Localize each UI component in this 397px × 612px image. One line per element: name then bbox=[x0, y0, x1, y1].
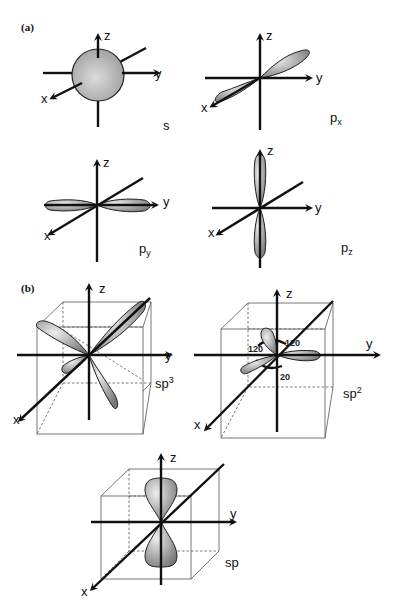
py-orbital-label: py bbox=[139, 241, 151, 258]
y-axis-label: y bbox=[155, 66, 162, 81]
panel-label-a: (a) bbox=[21, 21, 34, 34]
py-orbital-diagram: z y x py bbox=[44, 155, 170, 262]
bond-angle-label: 120 bbox=[285, 338, 300, 348]
y-axis-label: y bbox=[165, 348, 172, 363]
pz-orbital-diagram: z y x pz bbox=[208, 143, 353, 268]
x-axis-label: x bbox=[201, 100, 208, 115]
y-axis-label: y bbox=[315, 200, 322, 215]
sp3-orbital-label: sp3 bbox=[155, 375, 174, 391]
z-axis-label: z bbox=[104, 28, 111, 43]
px-orbital-label: px bbox=[330, 110, 342, 127]
z-axis-label: z bbox=[103, 155, 110, 170]
s-orbital-diagram: z y x s bbox=[41, 28, 170, 133]
bond-angle-label: 20 bbox=[280, 372, 290, 382]
bond-angle-label: 120 bbox=[248, 344, 263, 354]
sp3-orbital-diagram: z y x sp3 bbox=[13, 281, 174, 434]
x-axis-label: x bbox=[13, 412, 20, 427]
sp-orbital-label: sp bbox=[225, 555, 239, 570]
pz-orbital-label: pz bbox=[341, 240, 353, 257]
sp2-orbital-label: sp2 bbox=[343, 385, 362, 401]
x-axis-label: x bbox=[194, 417, 201, 432]
y-axis-label: y bbox=[316, 70, 323, 85]
z-axis-label: z bbox=[286, 286, 293, 301]
z-axis-label: z bbox=[99, 281, 106, 296]
y-axis-label: y bbox=[366, 336, 373, 351]
x-axis-label: x bbox=[44, 228, 51, 243]
sp-orbital-diagram: z y x sp bbox=[81, 450, 239, 599]
x-axis-label: x bbox=[208, 225, 215, 240]
y-axis-label: y bbox=[230, 506, 237, 521]
x-axis-label: x bbox=[81, 584, 88, 599]
px-orbital-diagram: z y x px bbox=[201, 28, 342, 130]
z-axis-label: z bbox=[266, 28, 273, 43]
z-axis-label: z bbox=[267, 143, 274, 158]
orbital-diagram: (a) (b) z y x s z y x px z y x py bbox=[0, 0, 397, 612]
x-axis-label: x bbox=[41, 91, 48, 106]
s-orbital-label: s bbox=[163, 118, 170, 133]
y-axis-label: y bbox=[163, 194, 170, 209]
z-axis-label: z bbox=[170, 450, 177, 465]
sp2-orbital-diagram: 120 120 20 z y x sp2 bbox=[194, 286, 378, 438]
panel-label-b: (b) bbox=[21, 282, 35, 295]
